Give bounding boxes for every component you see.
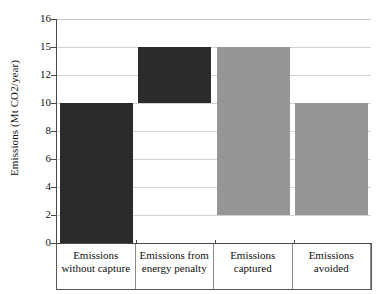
y-axis-tick: [51, 159, 57, 160]
x-axis-category-label-line: energy penalty: [139, 262, 210, 275]
x-axis-tick: [215, 240, 216, 244]
y-axis-tick: [51, 19, 57, 20]
x-axis-category-label: Emissionscaptured: [214, 244, 293, 289]
y-axis-tick-label: 4: [25, 181, 51, 192]
x-axis-category-label: Emissionswithout capture: [57, 244, 136, 289]
x-axis-category-label-line: Emissions: [60, 249, 131, 262]
bar: [295, 103, 368, 215]
y-axis-tick: [51, 131, 57, 132]
x-axis-category-label: Emissions fromenergy penalty: [136, 244, 215, 289]
y-axis-tick-label: 12: [25, 69, 51, 80]
y-axis-tick: [51, 75, 57, 76]
x-axis-category-label-line: Emissions: [229, 249, 276, 262]
bar: [138, 47, 211, 103]
y-axis-tick-label: 10: [25, 97, 51, 108]
x-axis-category-label-line: avoided: [308, 262, 355, 275]
x-axis-tick: [294, 240, 295, 244]
y-axis-tick-label: 16: [25, 13, 51, 24]
gridline: [57, 19, 371, 20]
x-axis-category-label-line: without capture: [60, 262, 131, 275]
y-axis-tick-label: 8: [25, 125, 51, 136]
y-axis-tick-label: 6: [25, 153, 51, 164]
x-axis-tick: [136, 240, 137, 244]
y-axis-tick-label: 2: [25, 209, 51, 220]
bar: [217, 47, 290, 215]
x-axis-category-label-line: Emissions: [308, 249, 355, 262]
bar: [60, 103, 133, 243]
y-axis-tick-label: 0: [25, 237, 51, 248]
y-axis-tick: [51, 47, 57, 48]
x-axis-category-label-line: captured: [229, 262, 276, 275]
y-axis-tick-labels: 0246810121516: [18, 19, 51, 243]
gridline: [57, 75, 371, 76]
y-axis-tick: [51, 103, 57, 104]
x-axis-category-label: Emissionsavoided: [293, 244, 372, 289]
x-axis-category-label-line: Emissions from: [139, 249, 210, 262]
x-axis-category-labels: Emissionswithout captureEmissions fromen…: [56, 244, 372, 290]
y-axis-tick: [51, 187, 57, 188]
y-axis-tick: [51, 215, 57, 216]
plot-area: [57, 19, 371, 243]
bar-chart: Emissions (Mt CO2/year) 0246810121516 Em…: [0, 0, 388, 294]
gridline: [57, 47, 371, 48]
y-axis-tick-label: 15: [25, 41, 51, 52]
